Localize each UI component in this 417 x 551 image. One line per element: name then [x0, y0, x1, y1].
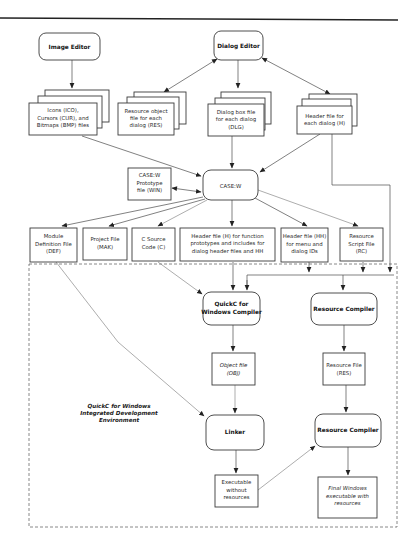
svg-text:Project File: Project File	[90, 236, 120, 243]
svg-text:(DLG): (DLG)	[228, 124, 244, 130]
svg-text:Linker: Linker	[225, 429, 245, 435]
node-casew-prototype: CASE:W Prototype file (WIN)	[128, 168, 171, 200]
svg-text:C Source: C Source	[142, 236, 167, 242]
svg-text:Resource Compiler: Resource Compiler	[313, 306, 375, 313]
svg-text:dialog header files and HH: dialog header files and HH	[192, 248, 264, 255]
node-resource-compiler-1: Resource Compiler	[311, 293, 377, 325]
svg-text:file (WIN): file (WIN)	[137, 187, 162, 193]
svg-text:resources: resources	[334, 500, 361, 506]
node-c-source: C Source Code (C)	[132, 228, 175, 261]
svg-text:Code (C): Code (C)	[142, 244, 165, 250]
svg-text:CASE:W: CASE:W	[139, 172, 161, 178]
node-module-definition: Module Definition File (DEF)	[30, 228, 77, 262]
node-resource-object-stack: Resource object file for each dialog (RE…	[118, 92, 186, 135]
svg-text:Definition File: Definition File	[35, 241, 73, 247]
svg-text:Module: Module	[44, 233, 64, 239]
node-resource-compiler-2: Resource Compiler	[315, 414, 381, 447]
node-quickc-compiler: QuickC for Windows Compiler	[201, 292, 262, 325]
build-flow-diagram: QuickC for Windows Integrated Developmen…	[0, 0, 417, 551]
svg-text:Final Windows: Final Windows	[328, 485, 367, 491]
svg-text:Prototype: Prototype	[136, 180, 163, 187]
svg-text:Script File: Script File	[348, 241, 375, 248]
svg-text:executable with: executable with	[326, 493, 370, 499]
svg-text:Object file: Object file	[220, 362, 248, 369]
svg-text:Icons (ICO),: Icons (ICO),	[47, 107, 79, 113]
svg-text:Cursors (CUR), and: Cursors (CUR), and	[37, 115, 88, 121]
top-rule	[0, 18, 398, 20]
svg-text:dialog IDs: dialog IDs	[291, 248, 318, 255]
svg-text:prototypes and includes for: prototypes and includes for	[190, 240, 265, 247]
svg-text:for menu and: for menu and	[286, 241, 322, 247]
svg-text:Header file for: Header file for	[305, 113, 344, 119]
ide-region-label: QuickC for Windows Integrated Developmen…	[80, 403, 158, 423]
svg-text:Resource Compiler: Resource Compiler	[317, 427, 379, 434]
svg-text:QuickC for Windows: QuickC for Windows	[87, 403, 151, 409]
svg-text:Resource File: Resource File	[326, 362, 362, 368]
svg-text:resources: resources	[223, 494, 249, 500]
node-resource-file: Resource File (RES)	[323, 353, 365, 385]
node-final-windows-executable: Final Windows executable with resources	[318, 477, 377, 518]
svg-text:Header file (H) for function: Header file (H) for function	[191, 233, 263, 239]
svg-text:each dialog (H): each dialog (H)	[304, 120, 345, 127]
node-executable-without-resources: Executable without resources	[215, 475, 258, 507]
svg-text:QuickC for: QuickC for	[215, 301, 249, 307]
svg-text:Windows Compiler: Windows Compiler	[201, 309, 262, 316]
node-dialog-box-file-stack: Dialog box file for each dialog (DLG)	[208, 92, 271, 136]
svg-text:Resource: Resource	[349, 233, 374, 239]
svg-text:dialog (RES): dialog (RES)	[130, 122, 163, 129]
node-image-editor: Image Editor	[39, 33, 100, 60]
node-icons-files-stack: Icons (ICO), Cursors (CUR), and Bitmaps …	[29, 90, 109, 135]
svg-text:(OBJ): (OBJ)	[227, 370, 241, 377]
svg-text:without: without	[226, 487, 246, 493]
svg-text:Dialog Editor: Dialog Editor	[217, 43, 260, 50]
svg-text:(MAK): (MAK)	[97, 244, 113, 250]
svg-text:Image Editor: Image Editor	[49, 44, 91, 51]
node-header-hh: Header file (HH) for menu and dialog IDs	[281, 228, 328, 262]
svg-text:Executable: Executable	[222, 479, 252, 485]
svg-text:(RES): (RES)	[337, 370, 352, 376]
svg-text:Integrated Development: Integrated Development	[80, 410, 158, 417]
node-casew: CASE:W	[203, 170, 258, 200]
node-header-function-prototypes: Header file (H) for function prototypes …	[180, 228, 275, 261]
svg-text:Dialog box file: Dialog box file	[217, 109, 256, 116]
node-object-file: Object file (OBJ)	[212, 353, 255, 385]
svg-text:(DEF): (DEF)	[46, 248, 61, 254]
node-project-file: Project File (MAK)	[83, 228, 127, 260]
svg-text:CASE:W: CASE:W	[220, 183, 242, 189]
svg-text:Bitmaps (BMP) files: Bitmaps (BMP) files	[37, 122, 90, 129]
svg-text:file for each: file for each	[130, 115, 162, 121]
node-linker: Linker	[206, 415, 264, 450]
node-dialog-editor: Dialog Editor	[214, 31, 263, 60]
node-resource-script: Resource Script File (RC)	[340, 228, 383, 261]
svg-text:Environment: Environment	[99, 417, 140, 423]
svg-text:for each dialog: for each dialog	[216, 116, 256, 123]
svg-text:Resource object: Resource object	[124, 108, 167, 115]
svg-text:(RC): (RC)	[356, 248, 367, 254]
svg-text:Header file (HH): Header file (HH)	[283, 233, 327, 239]
node-header-file-stack: Header file for each dialog (H)	[297, 94, 357, 134]
